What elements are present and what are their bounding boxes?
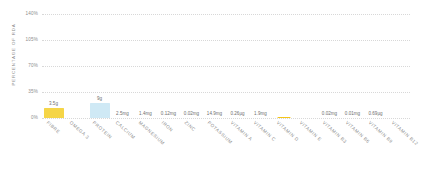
- bar-column: 2.5mg: [111, 14, 134, 118]
- bar-column: 0.01mg: [341, 14, 364, 118]
- x-axis-category-label: VITAMIN D: [276, 120, 300, 142]
- y-axis-tick-label: 35%: [28, 89, 38, 94]
- y-axis-tick-label: 105%: [25, 37, 38, 42]
- bar-column: 0.26µg: [226, 14, 249, 118]
- bar-column: [295, 14, 318, 118]
- bar-value-label: 1.9mg: [254, 111, 267, 116]
- bar: [277, 117, 290, 118]
- gridline: 0%: [42, 118, 410, 119]
- x-axis-category-label: OMEGA 3: [69, 120, 91, 140]
- x-axis-category-label: VITAMIN E: [299, 120, 323, 142]
- bar-value-label: 1.4mg: [139, 111, 152, 116]
- x-axis-category-label: CALCIUM: [115, 120, 137, 140]
- bar-value-label: 0.01mg: [345, 111, 360, 116]
- x-axis-category-label: VITAMIN B12: [391, 120, 419, 146]
- bar-column: 1.9mg: [249, 14, 272, 118]
- bar-value-label: 0.69µg: [368, 111, 382, 116]
- bar: [44, 108, 64, 118]
- bar-column: 0.02mg: [318, 14, 341, 118]
- x-axis-category-label: PROTEIN: [92, 120, 113, 140]
- bar-column: 14.9mg: [203, 14, 226, 118]
- bar-column: [65, 14, 88, 118]
- x-axis-category-label: FIBRE: [46, 120, 61, 135]
- x-axis-labels: FIBREOMEGA 3PROTEINCALCIUMMAGNESIUMIRONZ…: [42, 120, 410, 173]
- y-axis-tick-label: 140%: [25, 11, 38, 16]
- bars-layer: 3.5g9g2.5mg1.4mg0.12mg0.02mg14.9mg0.26µg…: [42, 14, 410, 118]
- bar-column: [272, 14, 295, 118]
- bar-value-label: 14.9mg: [207, 111, 222, 116]
- bar-column: [387, 14, 410, 118]
- x-axis-category-label: ZINC: [184, 120, 197, 132]
- x-axis-category-label: VITAMIN C: [253, 120, 277, 142]
- bar-value-label: 3.5g: [49, 101, 58, 106]
- nutrition-rda-chart: PERCENTAGE OF RDA 0%35%70%105%140% 3.5g9…: [0, 0, 421, 173]
- bar-value-label: 0.12mg: [161, 111, 176, 116]
- bar-column: 0.12mg: [157, 14, 180, 118]
- bar-value-label: 9g: [97, 96, 102, 101]
- bar-column: 0.69µg: [364, 14, 387, 118]
- y-axis-tick-label: 0%: [31, 115, 38, 120]
- y-axis-tick-label: 70%: [28, 63, 38, 68]
- bar-column: 1.4mg: [134, 14, 157, 118]
- bar-value-label: 2.5mg: [116, 111, 129, 116]
- x-axis-category-label: IRON: [161, 120, 175, 133]
- bar: [90, 103, 110, 118]
- bar-value-label: 0.02mg: [184, 111, 199, 116]
- y-axis-title: PERCENTAGE OF RDA: [11, 8, 16, 102]
- bar-value-label: 0.26µg: [230, 111, 244, 116]
- bar-value-label: 0.02mg: [322, 111, 337, 116]
- bar-column: 9g: [88, 14, 111, 118]
- bar-column: 3.5g: [42, 14, 65, 118]
- bar-column: 0.02mg: [180, 14, 203, 118]
- x-axis-category-label: VITAMIN A: [230, 120, 254, 142]
